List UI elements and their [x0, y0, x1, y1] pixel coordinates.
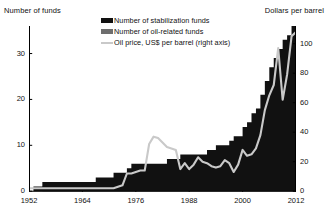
x-axis-tick-label: 1988 [169, 197, 209, 205]
x-axis-tick-label: 2012 [276, 197, 316, 205]
legend-label-stabilization: Number of stabilization funds [114, 16, 210, 25]
legend-swatch-oil-price-line-icon [101, 42, 113, 44]
legend-swatch-stabilization-icon [101, 18, 113, 23]
legend-item-oil-related-funds: Number of oil-related funds [101, 26, 230, 37]
x-axis-tick-label: 1976 [116, 197, 156, 205]
legend-label-oil-price: Oil price, US$ per barrel (right axis) [114, 38, 230, 47]
oil-funds-chart: Number of funds Dollars per barrel Numbe… [0, 0, 328, 217]
legend-label-oil-related: Number of oil-related funds [114, 27, 203, 36]
x-axis-tick-label: 1952 [9, 197, 49, 205]
legend-swatch-oil-related-icon [101, 29, 113, 34]
legend-item-oil-price: Oil price, US$ per barrel (right axis) [101, 37, 230, 48]
chart-legend: Number of stabilization funds Number of … [101, 15, 230, 48]
x-axis-tick-label: 1964 [62, 197, 102, 205]
legend-item-stabilization-funds: Number of stabilization funds [101, 15, 230, 26]
x-axis-tick-label: 2000 [223, 197, 263, 205]
